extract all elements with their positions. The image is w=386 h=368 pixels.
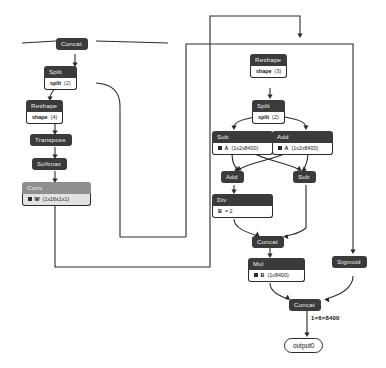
attribute-key: B: [218, 208, 222, 214]
node-attribute: B= 2: [212, 206, 273, 217]
node-concat-mid[interactable]: Concat: [252, 236, 284, 248]
node-attribute: W(1x16x1x1): [22, 194, 91, 205]
attribute-value: (3): [275, 68, 282, 74]
node-concat-out[interactable]: Concat: [289, 299, 321, 311]
node-label: Mul: [248, 258, 305, 270]
node-label: Reshape: [250, 54, 287, 66]
node-label: Concat: [252, 236, 284, 248]
node-label: Reshape: [26, 100, 63, 112]
node-attribute: A(1x2x8400): [212, 143, 273, 154]
attribute-value: (1x16x1x1): [43, 196, 70, 202]
graph-canvas[interactable]: Concat Split split(2) Reshape shape(4) T…: [0, 0, 386, 368]
node-sub-a[interactable]: Sub A(1x2x8400): [212, 131, 273, 155]
node-concat-top[interactable]: Concat: [56, 38, 88, 50]
attribute-value: (1x8400): [267, 272, 288, 278]
node-label: Split: [44, 66, 77, 78]
attribute-value: (2): [272, 114, 279, 120]
node-attribute: shape(3): [250, 66, 287, 77]
node-softmax[interactable]: Softmax: [32, 158, 67, 170]
node-sub-b[interactable]: Sub: [293, 171, 316, 183]
node-label: Conv: [22, 182, 91, 194]
node-div[interactable]: Div B= 2: [212, 194, 273, 218]
attribute-key: A: [285, 145, 289, 151]
node-attribute: B(1x8400): [248, 270, 305, 281]
attribute-value: (2): [64, 80, 71, 86]
attribute-key: A: [225, 145, 229, 151]
node-label: Sub: [293, 171, 316, 183]
node-label: Sigmoid: [332, 256, 367, 268]
node-add-b[interactable]: Add: [221, 171, 244, 183]
attribute-value: = 2: [225, 208, 233, 214]
node-attribute: split(2): [252, 112, 285, 123]
node-attribute: shape(4): [26, 112, 63, 123]
attribute-key: B: [261, 272, 265, 278]
node-label: Add: [272, 131, 333, 143]
attribute-value: (4): [51, 114, 58, 120]
node-attribute: split(2): [44, 78, 77, 89]
attribute-value: (1x2x8400): [231, 145, 258, 151]
tensor-swatch-icon: [218, 146, 222, 150]
node-add-a[interactable]: Add A(1x2x8400): [272, 131, 333, 155]
node-label: Add: [221, 171, 244, 183]
node-label: Transpose: [30, 134, 72, 146]
node-reshape-right[interactable]: Reshape shape(3): [250, 54, 287, 78]
attribute-value: (1x2x8400): [291, 145, 318, 151]
output-node-output0[interactable]: output0: [284, 338, 323, 353]
node-label: Div: [212, 194, 273, 206]
node-mul[interactable]: Mul B(1x8400): [248, 258, 305, 282]
attribute-key: shape: [32, 114, 48, 120]
attribute-key: W: [35, 196, 40, 202]
attribute-key: split: [50, 80, 61, 86]
attribute-key: split: [258, 114, 269, 120]
node-conv[interactable]: Conv W(1x16x1x1): [22, 182, 91, 206]
node-label: Sub: [212, 131, 273, 143]
tensor-swatch-icon: [254, 273, 258, 277]
node-label: Concat: [289, 299, 321, 311]
node-transpose[interactable]: Transpose: [30, 134, 72, 146]
attribute-key: shape: [256, 68, 272, 74]
node-attribute: A(1x2x8400): [272, 143, 333, 154]
output-edge-label: 1×6×8400: [311, 315, 340, 321]
node-reshape-left[interactable]: Reshape shape(4): [26, 100, 63, 124]
weight-swatch-icon: [28, 197, 32, 201]
node-label: Split: [252, 100, 285, 112]
node-sigmoid[interactable]: Sigmoid: [332, 256, 367, 268]
node-split-right[interactable]: Split split(2): [252, 100, 285, 124]
tensor-swatch-icon: [278, 146, 282, 150]
node-label: Softmax: [32, 158, 67, 170]
node-split-left[interactable]: Split split(2): [44, 66, 77, 90]
node-label: Concat: [56, 38, 88, 50]
